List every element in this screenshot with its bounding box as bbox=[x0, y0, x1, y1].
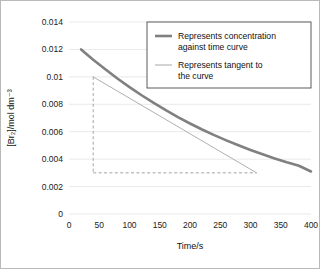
x-tick-label: 300 bbox=[243, 220, 257, 230]
legend-label-tangent-line2: the curve bbox=[178, 71, 214, 81]
legend-label-tangent-line1: Represents tangent to bbox=[178, 60, 263, 70]
x-tick-label: 100 bbox=[122, 220, 136, 230]
x-tick-label: 250 bbox=[213, 220, 227, 230]
y-axis-title: [Br₂]/mol dm⁻³ bbox=[6, 89, 16, 147]
x-tick-label: 0 bbox=[67, 220, 72, 230]
x-tick-label: 400 bbox=[304, 220, 318, 230]
x-tick-label: 200 bbox=[183, 220, 197, 230]
x-tick-label: 350 bbox=[274, 220, 288, 230]
y-tick-label: 0 bbox=[58, 209, 63, 219]
x-tick-label: 50 bbox=[95, 220, 105, 230]
legend-label-curve-line1: Represents concentration bbox=[178, 31, 276, 41]
y-tick-label: 0.01 bbox=[46, 72, 63, 82]
x-tick-label: 150 bbox=[153, 220, 167, 230]
y-tick-label: 0.008 bbox=[42, 99, 64, 109]
concentration-time-chart: 050100150200250300350400 00.0020.0040.00… bbox=[1, 1, 320, 269]
x-axis-ticklabels: 050100150200250300350400 bbox=[67, 220, 319, 230]
tangent-line bbox=[93, 77, 256, 173]
y-tick-label: 0.012 bbox=[42, 44, 64, 54]
chart-screenshot: 050100150200250300350400 00.0020.0040.00… bbox=[0, 0, 320, 269]
y-tick-label: 0.014 bbox=[42, 17, 64, 27]
y-tick-label: 0.002 bbox=[42, 182, 64, 192]
legend-box: Represents concentration against time cu… bbox=[147, 22, 311, 88]
y-axis-ticklabels: 00.0020.0040.0060.0080.010.0120.014 bbox=[42, 17, 64, 219]
legend-label-curve-line2: against time curve bbox=[178, 42, 248, 52]
y-tick-label: 0.004 bbox=[42, 154, 64, 164]
y-tick-label: 0.006 bbox=[42, 127, 64, 137]
x-axis-title: Time/s bbox=[177, 241, 204, 251]
